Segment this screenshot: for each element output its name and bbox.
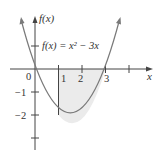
y-axis-label: f(x)	[39, 12, 55, 25]
function-label: f(x) = x² − 3x	[42, 40, 99, 52]
x-tick-label-2: 2	[78, 73, 83, 84]
x-tick-label-0: 0	[26, 71, 31, 82]
y-tick-label-neg1: −1	[15, 87, 26, 98]
x-axis	[10, 65, 153, 73]
y-tick-label-neg2: −2	[15, 110, 26, 121]
y-axis	[31, 16, 39, 150]
curve-right-arrow-icon	[116, 17, 121, 25]
curve-left-arrow-icon	[20, 17, 25, 25]
x-tick-label-1: 1	[61, 73, 66, 84]
y-axis-arrow-icon	[33, 16, 38, 23]
function-graph: f(x) f(x) = x² − 3x x 0 1 2 3 −1 −2	[0, 0, 164, 159]
x-tick-label-3: 3	[104, 73, 109, 84]
x-axis-label: x	[146, 70, 152, 82]
